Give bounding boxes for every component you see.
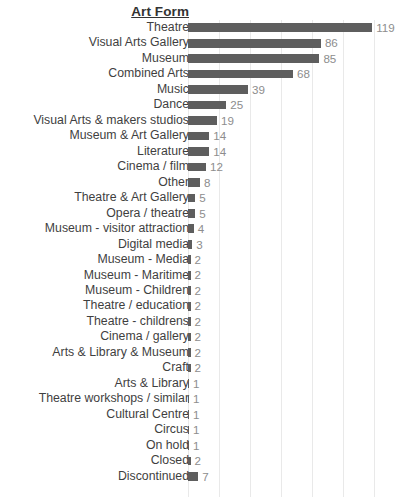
chart-row: Circus1 — [0, 422, 395, 437]
bar — [188, 271, 191, 280]
category-label: Circus — [154, 422, 189, 437]
bar — [188, 70, 294, 79]
category-label: Museum — [142, 51, 189, 66]
bar-value-label: 1 — [193, 424, 199, 436]
category-label: Theatre / education — [83, 298, 189, 313]
bar-value-label: 2 — [195, 316, 201, 328]
bar — [188, 441, 190, 450]
chart-row: Museum & Art Gallery14 — [0, 128, 395, 143]
bar-value-label: 25 — [230, 99, 243, 111]
bar-group: 86 — [188, 35, 338, 50]
chart-row: Opera / theatre5 — [0, 206, 395, 221]
category-label: Museum - Media — [97, 252, 189, 267]
bar — [188, 147, 210, 156]
bar-value-label: 12 — [210, 161, 223, 173]
bar-group: 12 — [188, 159, 224, 174]
chart-row: Visual Arts & makers studios19 — [0, 113, 395, 128]
bar-group: 3 — [188, 237, 203, 252]
bar — [188, 194, 196, 203]
chart-row: Museum - Media2 — [0, 252, 395, 267]
category-label: Museum - visitor attraction — [45, 221, 189, 236]
bar-group: 68 — [188, 66, 310, 81]
bar-group: 25 — [188, 97, 244, 112]
bar — [188, 85, 249, 94]
category-label: Theatre — [147, 20, 189, 35]
bar-group: 2 — [188, 360, 202, 375]
bar — [188, 333, 191, 342]
category-label: Arts & Library — [115, 376, 189, 391]
category-label: Theatre workshops / similar — [39, 391, 189, 406]
chart-row: Other8 — [0, 175, 395, 190]
bar-value-label: 1 — [193, 440, 199, 452]
bar-value-label: 39 — [252, 84, 265, 96]
bar-group: 2 — [188, 314, 202, 329]
chart-header: Art Form — [0, 3, 189, 20]
bar-value-label: 19 — [221, 115, 234, 127]
bar-group: 7 — [188, 469, 209, 484]
chart-row: Combined Arts68 — [0, 66, 395, 81]
chart-row: Cinema / gallery2 — [0, 329, 395, 344]
chart-row: Literature14 — [0, 144, 395, 159]
bar — [188, 224, 194, 233]
chart-title: Art Form — [131, 4, 189, 19]
chart-row: Digital media3 — [0, 237, 395, 252]
bar-group: 2 — [188, 252, 202, 267]
bar-group: 39 — [188, 82, 265, 97]
chart-row: Arts & Library1 — [0, 376, 395, 391]
category-label: Other — [158, 175, 189, 190]
chart-rows: Theatre119Visual Arts Gallery86Museum85C… — [0, 20, 395, 484]
bar — [188, 116, 217, 125]
category-label: Arts & Library & Museum — [52, 345, 189, 360]
bar-group: 1 — [188, 391, 200, 406]
chart-row: Music39 — [0, 82, 395, 97]
bar — [188, 348, 191, 357]
category-label: Combined Arts — [108, 66, 189, 81]
bar-group: 2 — [188, 453, 202, 468]
bar-group: 14 — [188, 144, 227, 159]
bar-value-label: 2 — [195, 455, 201, 467]
bar-value-label: 2 — [195, 269, 201, 281]
category-label: Visual Arts & makers studios — [33, 113, 189, 128]
bar-group: 119 — [188, 20, 395, 35]
bar-group: 19 — [188, 113, 234, 128]
chart-row: Theatre / education2 — [0, 298, 395, 313]
bar-value-label: 5 — [199, 208, 205, 220]
chart-row: Museum - Maritime2 — [0, 268, 395, 283]
bar-value-label: 1 — [193, 378, 199, 390]
chart-row: Theatre workshops / similar1 — [0, 391, 395, 406]
bar-group: 2 — [188, 329, 202, 344]
category-label: Digital media — [118, 237, 189, 252]
bar — [188, 426, 190, 435]
bar — [188, 410, 190, 419]
category-label: Craft — [162, 360, 189, 375]
bar-value-label: 68 — [297, 68, 310, 80]
category-label: Theatre - childrens — [86, 314, 189, 329]
bar — [188, 209, 196, 218]
bar — [188, 23, 373, 32]
bar — [188, 132, 210, 141]
chart-row: Museum85 — [0, 51, 395, 66]
bar-value-label: 2 — [195, 362, 201, 374]
bar-value-label: 86 — [325, 37, 338, 49]
category-label: Museum & Art Gallery — [69, 128, 189, 143]
bar — [188, 54, 320, 63]
bar-value-label: 8 — [204, 177, 210, 189]
bar-group: 1 — [188, 376, 200, 391]
category-label: On hold — [146, 438, 189, 453]
chart-row: Discontinued7 — [0, 469, 395, 484]
bar-group: 5 — [188, 206, 206, 221]
category-label: Visual Arts Gallery — [89, 35, 189, 50]
category-label: Cinema / gallery — [100, 329, 189, 344]
bar-value-label: 119 — [376, 22, 394, 34]
bar — [188, 317, 191, 326]
bar — [188, 286, 191, 295]
bar — [188, 302, 191, 311]
bar — [188, 178, 200, 187]
chart-row: Theatre & Art Gallery5 — [0, 190, 395, 205]
bar — [188, 163, 207, 172]
bar-group: 85 — [188, 51, 337, 66]
chart-row: Closed2 — [0, 453, 395, 468]
bar-value-label: 2 — [195, 254, 201, 266]
bar-group: 1 — [188, 407, 200, 422]
bar-value-label: 85 — [323, 53, 336, 65]
